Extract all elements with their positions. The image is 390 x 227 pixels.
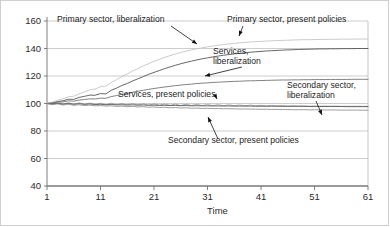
y-tick-label-100: 100 [25, 98, 41, 109]
x-tick-label-41: 41 [256, 191, 267, 202]
chart-screenshot: 4060801001201401601112131415161TimePrima… [0, 0, 390, 227]
line-chart: 4060801001201401601112131415161TimePrima… [0, 0, 390, 227]
y-tick-label-140: 140 [25, 43, 41, 54]
ann-services-lib-1: Services, [213, 46, 248, 56]
ann-secondary-pres: Secondary sector, present policies [168, 135, 299, 145]
y-tick-label-60: 60 [30, 153, 41, 164]
y-tick-label-160: 160 [25, 15, 41, 26]
ann-services-pres: Services, present policies [118, 89, 215, 99]
leader-primary-lib-arrowhead [192, 40, 197, 44]
ann-secondary-lib-1: Secondary sector, [287, 80, 356, 90]
x-tick-label-21: 21 [149, 191, 160, 202]
leader-services-lib [205, 67, 242, 76]
y-tick-label-120: 120 [25, 70, 41, 81]
ann-secondary-lib-2: liberalization [287, 90, 335, 100]
x-tick-label-51: 51 [309, 191, 320, 202]
ann-services-lib-2: liberalization [213, 56, 261, 66]
y-tick-label-40: 40 [30, 180, 41, 191]
leader-primary-pres-arrowhead [239, 31, 243, 36]
y-tick-label-80: 80 [30, 125, 41, 136]
x-tick-label-31: 31 [202, 191, 213, 202]
x-tick-label-1: 1 [44, 191, 49, 202]
leader-secondary-pres-arrowhead [208, 117, 212, 122]
x-tick-label-11: 11 [96, 191, 106, 202]
ann-primary-lib: Primary sector, liberalization [57, 14, 165, 24]
x-axis-title: Time [207, 205, 228, 216]
leader-secondary-lib-arrowhead [318, 110, 322, 115]
x-tick-label-61: 61 [363, 191, 374, 202]
ann-primary-pres: Primary sector, present policies [227, 14, 346, 24]
